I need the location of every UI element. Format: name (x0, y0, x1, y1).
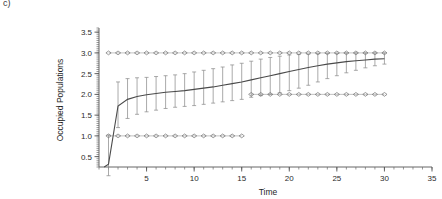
figure-panel: c) Occupied Populations Time 0.51.01.52.… (0, 0, 442, 199)
y-axis: 0.51.01.52.02.53.03.5 (81, 28, 99, 167)
x-axis-tick-label: 10 (190, 174, 199, 183)
y-axis-tick-label: 2.5 (81, 70, 93, 79)
x-axis-title: Time (259, 187, 278, 197)
y-axis-title: Occupied Populations (55, 59, 65, 142)
y-axis-title-group: Occupied Populations (55, 59, 65, 142)
x-axis: 5101520253035 (99, 167, 437, 183)
x-axis-tick-label: 35 (428, 174, 437, 183)
mean-line-path (104, 59, 384, 167)
x-axis-tick-label: 5 (144, 174, 149, 183)
x-axis-title-group: Time (259, 187, 278, 197)
mean-line-series (104, 59, 384, 167)
x-axis-tick-label: 20 (285, 174, 294, 183)
chart-canvas: Occupied Populations Time 0.51.01.52.02.… (0, 0, 442, 199)
y-axis-tick-label: 3.5 (81, 28, 93, 37)
error-bars (107, 53, 387, 176)
y-axis-tick-label: 1.0 (81, 132, 93, 141)
y-axis-tick-label: 0.5 (81, 153, 93, 162)
x-axis-tick-label: 25 (332, 174, 341, 183)
y-axis-tick-label: 1.5 (81, 111, 93, 120)
y-axis-tick-label: 3.0 (81, 49, 93, 58)
y-axis-tick-label: 2.0 (81, 90, 93, 99)
x-axis-tick-label: 30 (380, 174, 389, 183)
x-axis-tick-label: 15 (237, 174, 246, 183)
